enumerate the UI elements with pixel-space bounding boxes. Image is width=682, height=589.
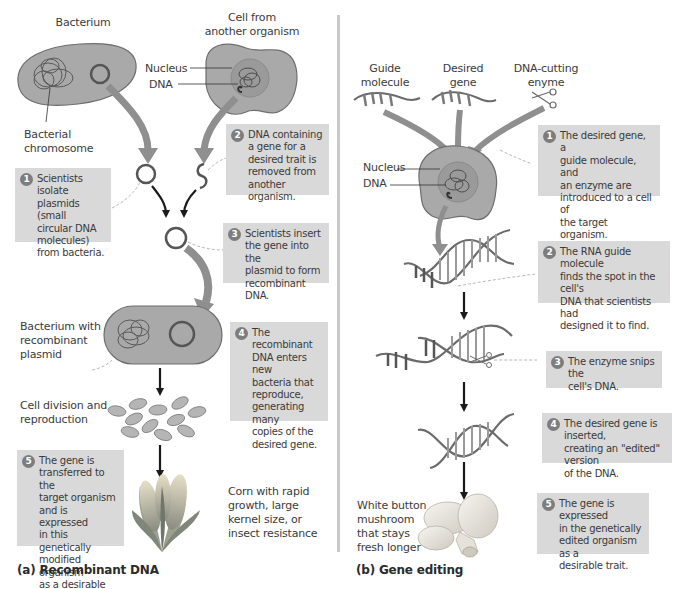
step-box-a3: 3 Scientists insertthe gene into the pla…	[223, 223, 329, 283]
step-number-badge: 5	[542, 498, 555, 511]
dna-helix-step4	[418, 414, 514, 468]
step-number-badge: 2	[231, 129, 244, 142]
recombinant-bacterium	[104, 306, 222, 364]
step-box-b5: 5 The gene is expressedin the geneticall…	[537, 493, 649, 554]
label-bacterial-chromosome: Bacterial chromosome	[24, 128, 93, 156]
dna-helix-step3	[376, 326, 512, 370]
label-bacterium-with-plasmid: Bacterium with recombinant plasmid	[20, 320, 101, 362]
label-desired-gene: Desired gene	[428, 62, 498, 90]
desired-gene-molecule	[432, 90, 496, 106]
label-dna-b: DNA	[363, 177, 387, 191]
step-number-badge: 3	[551, 356, 564, 369]
recombinant-plasmid	[166, 228, 186, 248]
label-guide-molecule: Guide molecule	[350, 62, 420, 90]
dna-helix-step2	[404, 230, 514, 288]
label-mushroom: White button mushroom that stays fresh l…	[357, 499, 426, 555]
donor-cell	[178, 44, 297, 114]
label-cell-from: Cell from another organism	[196, 11, 308, 39]
step-number-badge: 4	[547, 418, 560, 431]
mushroom-illustration	[418, 494, 498, 557]
label-bacterium: Bacterium	[38, 16, 128, 30]
step-box-b1: 1 The desired gene, aguide molecule, and…	[538, 125, 660, 196]
scissors-icon	[532, 89, 556, 108]
step-number-badge: 1	[543, 130, 556, 143]
label-corn: Corn with rapid growth, large kernel siz…	[228, 485, 317, 541]
label-nucleus-a: Nucleus	[145, 62, 187, 76]
guide-molecule	[354, 92, 420, 106]
panel-divider	[337, 15, 340, 552]
step-number-badge: 1	[20, 173, 33, 186]
step-box-b4: 4 The desired gene is inserted,creating …	[542, 413, 672, 463]
bacterium-cell	[18, 44, 136, 122]
step-box-b2: 2 The RNA guide moleculefinds the spot i…	[538, 241, 670, 303]
label-nucleus-b: Nucleus	[363, 161, 405, 175]
step-number-badge: 4	[235, 327, 248, 340]
caption-recombinant-dna: (a) Recombinant DNA	[17, 563, 159, 577]
step-number-badge: 3	[228, 228, 241, 241]
step-number-badge: 5	[22, 455, 35, 468]
step-number-badge: 2	[543, 246, 556, 259]
corn-illustration	[132, 473, 200, 552]
step-box-a5: 5 The gene istransferred to the target o…	[17, 450, 124, 546]
dividing-cells	[107, 394, 207, 443]
label-dna-cutting-enzyme: DNA-cutting enyme	[506, 62, 586, 90]
plasmid	[137, 165, 155, 183]
step-box-a1: 1 Scientists isolateplasmids (small circ…	[15, 168, 111, 242]
dna-fragment	[198, 164, 207, 188]
caption-gene-editing: (b) Gene editing	[356, 563, 463, 577]
step-box-a4: 4 The recombinantDNA enters new bacteria…	[230, 322, 328, 421]
label-cell-division: Cell division and reproduction	[20, 399, 107, 427]
step-box-b3: 3 The enzyme snips thecell's DNA.	[546, 351, 662, 388]
step-box-a2: 2 DNA containinga gene for a desired tra…	[226, 124, 329, 195]
label-dna-a: DNA	[149, 78, 173, 92]
